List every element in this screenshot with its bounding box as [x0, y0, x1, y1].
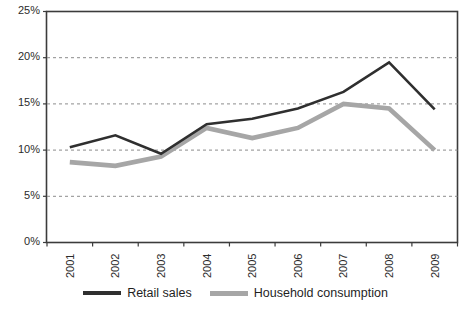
legend-label-household-consumption: Household consumption	[254, 286, 388, 300]
y-axis-tick-label: 10%	[0, 143, 40, 155]
y-axis-tick-label: 20%	[0, 50, 40, 62]
legend-swatch-household-consumption	[210, 291, 248, 296]
x-axis-tick-label: 2003	[155, 254, 167, 278]
legend-item-household-consumption: Household consumption	[210, 286, 388, 300]
x-axis-tick-label: 2002	[109, 254, 121, 278]
line-chart: 0%5%10%15%20%25% 20012002200320042005200…	[0, 0, 471, 310]
x-axis-tick-label: 2007	[337, 254, 349, 278]
plot-frame	[47, 12, 458, 243]
x-axis-tick-label: 2001	[64, 254, 76, 278]
x-axis-tick-label: 2005	[246, 254, 258, 278]
y-axis-tick-label: 15%	[0, 96, 40, 108]
x-axis-tick-label: 2009	[429, 254, 441, 278]
x-axis-tick-label: 2006	[292, 254, 304, 278]
y-axis-tick-label: 0%	[0, 235, 40, 247]
y-axis-tick-label: 25%	[0, 4, 40, 16]
y-axis-tick-label: 5%	[0, 189, 40, 201]
legend-label-retail-sales: Retail sales	[127, 286, 192, 300]
legend-item-retail-sales: Retail sales	[83, 286, 192, 300]
legend-swatch-retail-sales	[83, 291, 121, 295]
x-axis-tick-label: 2004	[201, 254, 213, 278]
chart-legend: Retail sales Household consumption	[0, 280, 471, 306]
x-axis-tick-label: 2008	[383, 254, 395, 278]
